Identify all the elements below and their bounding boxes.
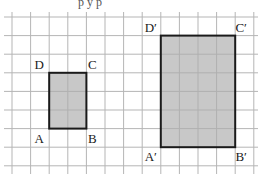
cropped-caption-fragment: p y p [78, 0, 102, 9]
grid-diagram: ABCDA′B′C′D′ p y p [0, 0, 258, 174]
vertex-label-a-prime: A′ [145, 149, 157, 164]
vertex-label-b: B [88, 131, 97, 146]
rectangle-abcd [49, 73, 86, 129]
vertex-label-d-prime: D′ [145, 20, 157, 35]
vertex-label-c: C [88, 57, 97, 72]
rectangle-abcd-prime [161, 36, 235, 148]
vertex-label-d: D [35, 57, 44, 72]
vertex-label-b-prime: B′ [235, 149, 247, 164]
vertex-label-c-prime: C′ [235, 20, 247, 35]
vertex-label-a: A [35, 131, 45, 146]
